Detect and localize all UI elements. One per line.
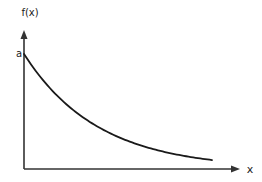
y-axis-label: f(x) [21,7,38,18]
x-axis-label: x [247,163,254,176]
curve-layer [24,54,212,160]
series-line-0 [24,54,212,160]
y-intercept-label: a [16,48,22,59]
y-axis-arrow-icon [21,30,28,39]
chart: f(x) x a [0,0,262,182]
x-axis-arrow-icon [231,166,240,173]
axes [21,30,241,173]
